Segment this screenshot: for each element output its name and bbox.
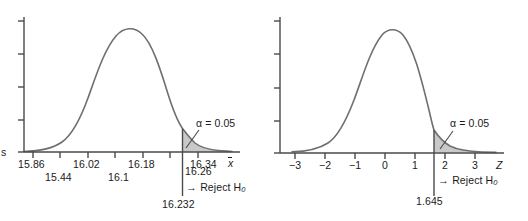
reject-arrow-icon: → xyxy=(438,174,449,186)
x-tick-label: 1 xyxy=(412,160,418,171)
normal-curve xyxy=(292,30,496,153)
reject-label: Reject H xyxy=(452,174,493,186)
x-tick-label: 16.18 xyxy=(128,159,155,170)
x-tick-label: 15.86 xyxy=(18,159,45,170)
x-tick-label: 0 xyxy=(382,160,388,171)
x-axis-label: x xyxy=(228,158,233,169)
x-tick-label: 16.02 xyxy=(73,159,100,170)
alpha-annotation: α = 0.05 xyxy=(450,118,489,129)
reject-label: Reject H xyxy=(200,181,241,193)
x-tick-label: −1 xyxy=(349,160,361,171)
alpha-annotation: α = 0.05 xyxy=(196,118,235,129)
critical-value-label: 16.232 xyxy=(162,199,195,210)
x-axis-label: Z xyxy=(496,160,503,171)
normal-curve xyxy=(24,29,232,152)
x-tick-label: 2 xyxy=(442,160,448,171)
x-tick-label: 3 xyxy=(472,160,478,171)
panel-z-distribution: −3 −2 −1 0 1 2 3 Z α = 0.05 → Reject H0 … xyxy=(264,0,528,221)
reject-subscript: 0 xyxy=(241,185,245,194)
critical-value-label: 1.645 xyxy=(416,196,443,207)
two-panel-normal-curve-figure: s xyxy=(0,0,528,221)
x-tick-label: −3 xyxy=(289,160,301,171)
x-tick-label: 16.26 xyxy=(185,166,212,177)
reject-subscript: 0 xyxy=(493,178,497,187)
reject-arrow-icon: → xyxy=(186,181,197,193)
reject-annotation: → Reject H0 xyxy=(438,175,497,188)
x-tick-label: 16.1 xyxy=(108,172,129,183)
x-tick-label: −2 xyxy=(319,160,331,171)
panel-xbar-distribution: 15.86 16.02 16.18 16.34 x 15.44 16.1 16.… xyxy=(0,0,264,221)
reject-annotation: → Reject H0 xyxy=(186,182,245,195)
x-tick-label: 15.44 xyxy=(45,172,72,183)
